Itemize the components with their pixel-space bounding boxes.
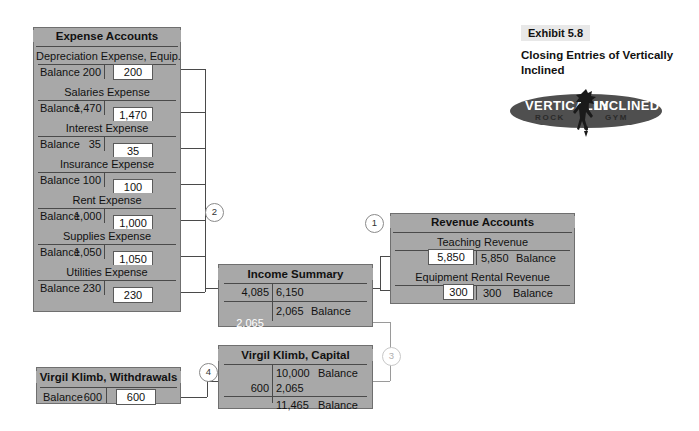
expense-account-card: Rent Expense Balance 1,000 bbox=[36, 193, 178, 223]
withdrawals-title-rule bbox=[40, 387, 177, 388]
account-name: Supplies Expense bbox=[36, 229, 178, 244]
capital-debit: 600 bbox=[240, 381, 269, 395]
account-name: Interest Expense bbox=[36, 121, 178, 136]
account-divider bbox=[476, 286, 477, 300]
balance-label: Balance bbox=[513, 286, 553, 300]
income-summary-credit: 6,150 bbox=[276, 285, 304, 299]
income-summary-title: Income Summary bbox=[218, 268, 373, 280]
capital-beginning-balance-label: Balance bbox=[318, 366, 358, 380]
expense-account-card: Supplies Expense Balance 1,050 bbox=[36, 229, 178, 259]
expense-title-rule bbox=[36, 46, 178, 47]
step-circle-3: 3 bbox=[382, 347, 401, 366]
income-summary-balance: 2,065 bbox=[276, 304, 304, 318]
withdrawals-divider bbox=[106, 388, 107, 403]
income-summary-divider bbox=[272, 284, 273, 321]
step-circle-4: 4 bbox=[199, 363, 218, 382]
balance-amount: 35 bbox=[74, 137, 101, 151]
capital-divider bbox=[272, 365, 273, 403]
income-summary-balance-label: Balance bbox=[311, 304, 351, 318]
closing-amount: 5,850 bbox=[428, 249, 474, 265]
account-name: Utilities Expense bbox=[36, 265, 178, 280]
account-name: Rent Expense bbox=[36, 193, 178, 208]
exhibit-label: Exhibit 5.8 bbox=[521, 25, 590, 41]
income-summary-mid-rule bbox=[224, 301, 367, 302]
balance-amount: 1,000 bbox=[74, 209, 101, 223]
account-name: Equipment Rental Revenue bbox=[393, 270, 572, 285]
exhibit-caption: Closing Entries of Vertically Inclined bbox=[521, 48, 696, 78]
revenue-title-rule bbox=[393, 232, 572, 233]
income-summary-debit: 4,085 bbox=[236, 285, 269, 299]
expense-accounts-title: Expense Accounts bbox=[33, 30, 181, 42]
closing-amount: 300 bbox=[443, 284, 474, 300]
account-name: Insurance Expense bbox=[36, 157, 178, 172]
account-divider bbox=[104, 101, 105, 115]
account-name: Salaries Expense bbox=[36, 85, 178, 100]
capital-ending-balance-label: Balance bbox=[318, 398, 358, 412]
balance-amount: 230 bbox=[74, 281, 101, 295]
logo-sub-right: GYM bbox=[605, 113, 628, 122]
account-divider bbox=[104, 209, 105, 223]
balance-label: Balance bbox=[516, 251, 556, 265]
income-summary-title-rule bbox=[224, 283, 367, 284]
withdrawals-closing: 600 bbox=[116, 389, 156, 405]
capital-ending-balance: 11,465 bbox=[276, 398, 309, 412]
logo-sub-left: ROCK bbox=[535, 113, 565, 122]
account-divider bbox=[104, 137, 105, 151]
revenue-account-card: Teaching Revenue 5,850 Balance bbox=[393, 235, 572, 265]
withdrawals-balance: 600 bbox=[74, 390, 102, 404]
balance-amount: 300 bbox=[483, 286, 501, 300]
expense-account-card: Insurance Expense Balance 100 bbox=[36, 157, 178, 187]
account-divider bbox=[104, 65, 105, 79]
expense-account-card: Salaries Expense Balance 1,470 bbox=[36, 85, 178, 115]
withdrawals-title: Virgil Klimb, Withdrawals bbox=[36, 371, 181, 383]
account-name: Teaching Revenue bbox=[393, 235, 572, 250]
expense-account-card: Utilities Expense Balance 230 bbox=[36, 265, 178, 295]
logo: VERTICALLY INCLINED ROCK GYM bbox=[509, 88, 664, 140]
step-circle-2: 2 bbox=[205, 203, 224, 222]
logo-word-right: INCLINED bbox=[595, 98, 660, 113]
capital-credit: 2,065 bbox=[276, 381, 304, 395]
capital-title-rule bbox=[224, 364, 367, 365]
closing-amount: 230 bbox=[113, 287, 153, 303]
account-divider bbox=[104, 245, 105, 259]
account-divider bbox=[104, 173, 105, 187]
balance-amount: 1,470 bbox=[74, 101, 101, 115]
revenue-account-card: Equipment Rental Revenue 300 Balance bbox=[393, 270, 572, 300]
revenue-accounts-title: Revenue Accounts bbox=[390, 216, 575, 228]
balance-amount: 200 bbox=[74, 65, 101, 79]
balance-amount: 5,850 bbox=[481, 251, 509, 265]
expense-account-card: Interest Expense Balance 35 bbox=[36, 121, 178, 151]
step-circle-1: 1 bbox=[365, 214, 384, 233]
capital-mid-rule bbox=[224, 396, 367, 397]
capital-beginning-balance: 10,000 bbox=[276, 366, 310, 380]
exhibit-diagram: Expense Accounts Depreciation Expense, E… bbox=[0, 0, 699, 431]
account-divider bbox=[476, 251, 477, 265]
expense-account-card: Depreciation Expense, Equip. Balance 200 bbox=[36, 49, 178, 79]
account-name: Depreciation Expense, Equip. bbox=[36, 49, 178, 64]
balance-amount: 100 bbox=[74, 173, 101, 187]
income-summary-closing: 2,065 bbox=[228, 316, 272, 331]
balance-amount: 1,050 bbox=[74, 245, 101, 259]
account-divider bbox=[104, 281, 105, 295]
closing-amount: 200 bbox=[113, 64, 153, 80]
capital-title: Virgil Klimb, Capital bbox=[218, 349, 373, 361]
